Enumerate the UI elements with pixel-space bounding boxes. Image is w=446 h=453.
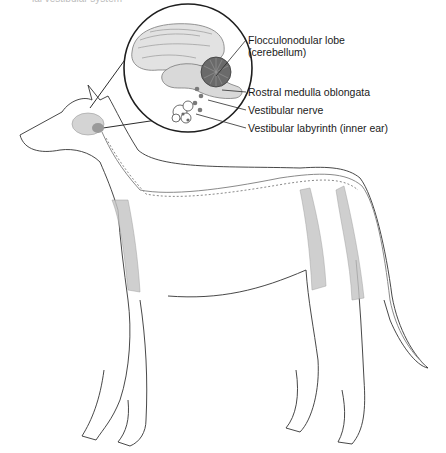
- label-vestibular-labyrinth: Vestibular labyrinth (inner ear): [248, 122, 388, 134]
- label-line-2: (cerebellum): [248, 46, 345, 58]
- label-vestibular-nerve: Vestibular nerve: [248, 104, 323, 116]
- label-flocculonodular-lobe: Flocculonodular lobe (cerebellum): [248, 34, 345, 58]
- label-line-1: Vestibular nerve: [248, 104, 323, 116]
- magnified-brain-inset: [124, 4, 252, 132]
- head-brain: [72, 113, 104, 135]
- label-line-1: Rostral medulla oblongata: [248, 86, 370, 98]
- label-rostral-medulla: Rostral medulla oblongata: [248, 86, 370, 98]
- dog-anatomy-illustration: [0, 0, 446, 453]
- label-line-1: Vestibular labyrinth (inner ear): [248, 122, 388, 134]
- limb-musculature: [112, 186, 364, 300]
- label-line-1: Flocculonodular lobe: [248, 34, 345, 46]
- dog-outline: [20, 85, 428, 446]
